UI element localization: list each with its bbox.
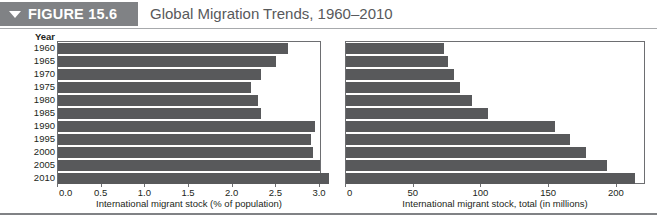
bar xyxy=(346,43,444,54)
axis-tick-label: 0.0 xyxy=(59,187,72,198)
axis-tick-label: 1.5 xyxy=(181,187,194,198)
year-label: 1970 xyxy=(18,69,55,79)
header-divider xyxy=(0,28,657,29)
axis-tick-label: 200 xyxy=(608,187,624,198)
bar xyxy=(346,160,607,171)
axis-tick-label: 3.0 xyxy=(312,187,325,198)
bar-series-total xyxy=(346,42,644,183)
figure-container: FIGURE 15.6 Global Migration Trends, 196… xyxy=(0,0,657,220)
axis-tick xyxy=(57,184,58,187)
axis-tick-label: 0.5 xyxy=(94,187,107,198)
x-axis-title-total: International migrant stock, total (in m… xyxy=(345,198,645,209)
axis-tick xyxy=(345,184,346,187)
chart-panel-total xyxy=(345,41,645,184)
bar xyxy=(58,173,329,184)
bar xyxy=(58,82,251,93)
figure-number-label: FIGURE 15.6 xyxy=(28,6,117,22)
bar-series-percent xyxy=(58,42,320,183)
year-label: 1990 xyxy=(18,121,55,131)
bar xyxy=(346,147,586,158)
axis-tick-label: 0 xyxy=(347,187,352,198)
axis-tick-label: 2.0 xyxy=(225,187,238,198)
bar xyxy=(346,56,448,67)
bar xyxy=(58,43,288,54)
year-label: 1985 xyxy=(18,108,55,118)
year-label: 2005 xyxy=(18,160,55,170)
year-axis-labels: 1960196519701975198019851990199520002005… xyxy=(18,41,55,184)
figure-title: Global Migration Trends, 1960–2010 xyxy=(150,2,393,26)
bar xyxy=(58,69,261,80)
triangle-down-icon xyxy=(9,11,21,18)
bar xyxy=(346,121,555,132)
year-label: 2000 xyxy=(18,147,55,157)
axis-tick-label: 50 xyxy=(407,187,418,198)
bar xyxy=(346,82,460,93)
year-label: 2010 xyxy=(18,173,55,183)
year-label: 1965 xyxy=(18,56,55,66)
bar xyxy=(346,95,472,106)
axis-tick-label: 100 xyxy=(473,187,489,198)
bar xyxy=(58,56,276,67)
bar xyxy=(346,134,570,145)
x-axis-title-percent: International migrant stock (% of popula… xyxy=(57,198,321,209)
year-label: 1960 xyxy=(18,43,55,53)
bar xyxy=(58,160,320,171)
axis-tick-label: 150 xyxy=(540,187,556,198)
bar xyxy=(346,69,454,80)
bar xyxy=(58,95,258,106)
chart-panel-percent xyxy=(57,41,321,184)
bar xyxy=(346,173,635,184)
axis-tick-label: 1.0 xyxy=(138,187,151,198)
figure-bottom-rule xyxy=(0,213,657,215)
year-label: 1975 xyxy=(18,82,55,92)
figure-header: FIGURE 15.6 Global Migration Trends, 196… xyxy=(0,2,657,26)
bar xyxy=(58,134,311,145)
bar xyxy=(58,121,315,132)
axis-tick-label: 2.5 xyxy=(269,187,282,198)
bar xyxy=(58,147,313,158)
year-label: 1995 xyxy=(18,134,55,144)
bar xyxy=(346,108,488,119)
figure-tag: FIGURE 15.6 xyxy=(0,2,138,26)
year-label: 1980 xyxy=(18,95,55,105)
bar xyxy=(58,108,261,119)
